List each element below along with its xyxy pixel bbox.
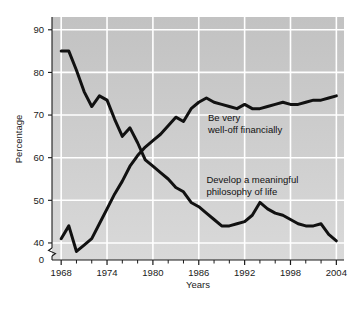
x-axis-title: Years bbox=[186, 279, 210, 290]
y-axis-tick-label: 60 bbox=[33, 152, 44, 163]
chart-figure: 405060708090 196819741980198619921998200… bbox=[0, 0, 362, 310]
line-chart: 405060708090 196819741980198619921998200… bbox=[0, 0, 362, 310]
y-axis-tick-label: 50 bbox=[33, 195, 44, 206]
x-axis-tick-label: 1968 bbox=[51, 267, 72, 278]
x-axis-tick-label: 1980 bbox=[142, 267, 163, 278]
x-axis-tick-label: 2004 bbox=[326, 267, 347, 278]
series-annotation-line: well-off financially bbox=[207, 124, 283, 135]
y-axis-tick-label: 40 bbox=[33, 237, 44, 248]
series-annotation-line: Be very bbox=[208, 112, 240, 123]
y-axis-title: Percentage bbox=[13, 115, 24, 164]
y-axis-tick-label: 70 bbox=[33, 109, 44, 120]
x-axis-tick-label: 1986 bbox=[188, 267, 209, 278]
y-axis-tick-label: 80 bbox=[33, 67, 44, 78]
series-annotation-line: Develop a meaningful bbox=[206, 174, 298, 185]
x-axis-tick-label: 1998 bbox=[280, 267, 301, 278]
series-annotation-line: philosophy of life bbox=[206, 186, 277, 197]
x-axis-tick-label: 1974 bbox=[96, 267, 117, 278]
y-tick-label-zero: 0 bbox=[39, 254, 44, 265]
x-axis-tick-label: 1992 bbox=[234, 267, 255, 278]
y-axis-tick-label: 90 bbox=[33, 24, 44, 35]
